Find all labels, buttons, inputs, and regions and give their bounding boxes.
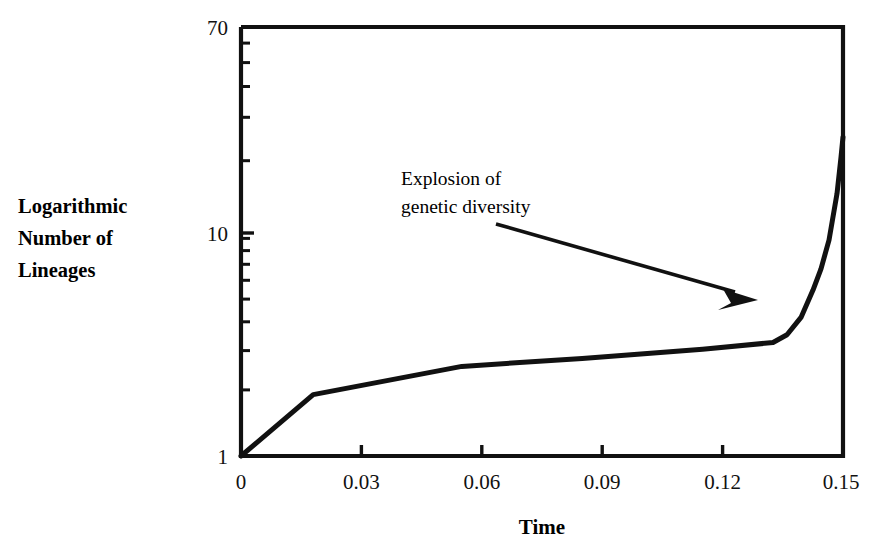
x-tick-label-003: 0.03: [343, 470, 380, 494]
chart-figure: 70 10 1 0 0.03 0.06 0.09 0.12 0.15 Logar…: [0, 0, 885, 558]
x-tick-label-012: 0.12: [704, 470, 741, 494]
x-tick-label-0: 0: [236, 470, 247, 494]
lineage-log-plot: 70 10 1 0 0.03 0.06 0.09 0.12 0.15 Logar…: [0, 0, 885, 558]
y-tick-label-1: 1: [218, 445, 229, 469]
x-axis-title: Time: [519, 515, 565, 539]
annotation-line-2: genetic diversity: [401, 196, 531, 217]
y-tick-label-70: 70: [207, 16, 228, 40]
y-axis-title-line-2: Number of: [18, 227, 114, 249]
y-axis-title-line-1: Logarithmic: [18, 195, 127, 218]
x-tick-label-006: 0.06: [463, 470, 500, 494]
plot-background: [0, 0, 885, 558]
y-tick-label-10: 10: [207, 222, 228, 246]
x-tick-label-015: 0.15: [823, 470, 860, 494]
x-tick-label-009: 0.09: [584, 470, 621, 494]
y-axis-title-line-3: Lineages: [18, 259, 95, 282]
annotation-line-1: Explosion of: [401, 168, 502, 189]
